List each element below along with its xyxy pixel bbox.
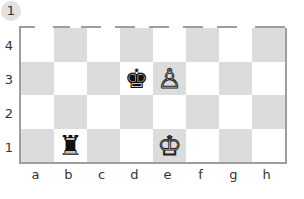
square-g4[interactable]	[219, 28, 252, 62]
chess-board: ♚♙♜♔	[19, 28, 287, 164]
square-g3[interactable]	[219, 62, 252, 96]
square-b4[interactable]	[54, 28, 87, 62]
file-label-c: c	[85, 167, 118, 182]
square-f2[interactable]	[186, 95, 219, 129]
square-f4[interactable]	[186, 28, 219, 62]
square-b3[interactable]	[54, 62, 87, 96]
square-c1[interactable]	[87, 129, 120, 163]
square-g1[interactable]	[219, 129, 252, 163]
square-g2[interactable]	[219, 95, 252, 129]
rank-label-4: 4	[4, 38, 14, 53]
file-label-b: b	[52, 167, 85, 182]
square-a4[interactable]	[21, 28, 54, 62]
square-c4[interactable]	[87, 28, 120, 62]
square-h3[interactable]	[252, 62, 285, 96]
file-label-h: h	[250, 167, 283, 182]
square-d2[interactable]	[120, 95, 153, 129]
square-a3[interactable]	[21, 62, 54, 96]
square-h4[interactable]	[252, 28, 285, 62]
file-label-e: e	[151, 167, 184, 182]
file-label-f: f	[184, 167, 217, 182]
board-rank-1: ♜♔	[21, 129, 285, 163]
square-e3[interactable]: ♙	[153, 62, 186, 96]
board-rank-2	[21, 95, 285, 129]
square-d1[interactable]	[120, 129, 153, 163]
rank-label-2: 2	[4, 106, 14, 121]
black-rook-icon[interactable]: ♜	[58, 132, 82, 159]
square-f3[interactable]	[186, 62, 219, 96]
square-c3[interactable]	[87, 62, 120, 96]
square-a2[interactable]	[21, 95, 54, 129]
file-label-g: g	[217, 167, 250, 182]
square-d4[interactable]	[120, 28, 153, 62]
board-rank-4	[21, 28, 285, 62]
square-f1[interactable]	[186, 129, 219, 163]
square-h2[interactable]	[252, 95, 285, 129]
square-b2[interactable]	[54, 95, 87, 129]
square-c2[interactable]	[87, 95, 120, 129]
file-label-a: a	[19, 167, 52, 182]
diagram-number-badge: 1	[1, 1, 21, 21]
board-rank-3: ♚♙	[21, 62, 285, 96]
file-label-d: d	[118, 167, 151, 182]
black-king-icon[interactable]: ♚	[124, 65, 148, 92]
square-e4[interactable]	[153, 28, 186, 62]
rank-label-1: 1	[4, 140, 14, 155]
square-a1[interactable]	[21, 129, 54, 163]
white-pawn-icon[interactable]: ♙	[157, 65, 181, 92]
square-d3[interactable]: ♚	[120, 62, 153, 96]
square-e1[interactable]: ♔	[153, 129, 186, 163]
square-e2[interactable]	[153, 95, 186, 129]
square-h1[interactable]	[252, 129, 285, 163]
rank-label-3: 3	[4, 72, 14, 87]
white-king-icon[interactable]: ♔	[157, 132, 181, 159]
square-b1[interactable]: ♜	[54, 129, 87, 163]
